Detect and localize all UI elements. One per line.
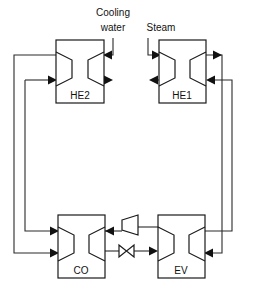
arrowhead-into-ev-left bbox=[149, 247, 158, 256]
unit-ev: EV bbox=[158, 215, 205, 278]
unit-label-he1: HE1 bbox=[172, 90, 192, 101]
arrowhead-into-co-upper-right bbox=[105, 227, 114, 236]
flowsheet-canvas: HE2 HE1 CO EV Cooling water Steam bbox=[0, 0, 257, 289]
pipe-ev-right-inner-loop bbox=[205, 76, 232, 232]
expansion-valve-symbol bbox=[119, 245, 134, 257]
unit-he2: HE2 bbox=[56, 40, 104, 103]
arrowhead-he1-outlet-left bbox=[149, 76, 158, 85]
pipe-he2-left-inner-loop bbox=[25, 76, 59, 236]
unit-label-he2: HE2 bbox=[70, 90, 90, 101]
compressor-symbol bbox=[122, 215, 138, 235]
stream-label-steam: Steam bbox=[147, 22, 176, 33]
unit-label-co: CO bbox=[74, 265, 89, 276]
arrowhead-he1-top-right-turn bbox=[213, 51, 222, 60]
pipe-steam-condensate-outlet bbox=[149, 76, 159, 85]
process-flow-diagram: HE2 HE1 CO EV Cooling water Steam bbox=[0, 0, 257, 289]
unit-co: CO bbox=[58, 215, 105, 278]
pipe-cooling-water-outlet bbox=[104, 76, 113, 85]
stream-label-cooling-water-line1: Cooling bbox=[96, 7, 130, 18]
stream-label-cooling-water-line2: water bbox=[100, 22, 126, 33]
unit-label-ev: EV bbox=[174, 265, 188, 276]
unit-he1: HE1 bbox=[159, 40, 206, 103]
arrowhead-he2-outlet-right bbox=[104, 76, 113, 85]
arrowhead-into-he1-lower-right bbox=[206, 76, 215, 85]
pipe-he2-left-outer-loop bbox=[14, 55, 59, 258]
